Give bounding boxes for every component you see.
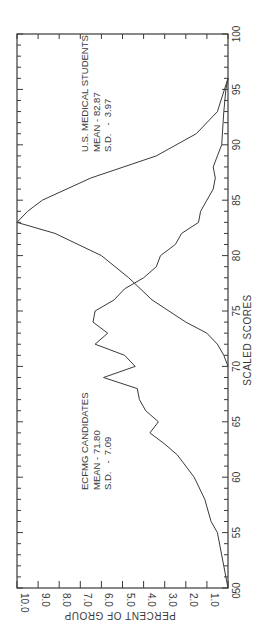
- x-axis-ticks: 50556065707580859095100: [17, 25, 242, 593]
- plot-frame: [17, 34, 228, 588]
- y-axis-ticks: 01.02.03.04.05.06.07.08.09.010.0: [17, 34, 241, 613]
- y-tick-label: 4.0: [146, 593, 157, 607]
- ecfmg-title: ECFMG CANDIDATES: [79, 393, 90, 490]
- distribution-chart: 50556065707580859095100 01.02.03.04.05.0…: [0, 0, 264, 624]
- x-tick-label: 100: [231, 25, 242, 42]
- x-tick-label: 65: [231, 416, 242, 428]
- y-tick-label: 1.0: [209, 593, 220, 607]
- ecfmg-curve: [93, 78, 228, 588]
- us-curve: [17, 78, 228, 366]
- ecfmg-annotation: ECFMG CANDIDATES MEAN - 71.80 S.D. - 7.0…: [79, 393, 113, 490]
- y-axis-title: PERCENT OF GROUP: [64, 610, 176, 621]
- y-tick-label: 2.0: [188, 593, 199, 607]
- us-sd: S.D. - 3.97: [102, 99, 113, 152]
- x-tick-label: 50: [231, 582, 242, 594]
- x-tick-label: 55: [231, 527, 242, 539]
- x-axis-title: SCALED SCORES: [242, 294, 253, 386]
- y-tick-label: 3.0: [167, 593, 178, 607]
- y-tick-label: 6.0: [103, 593, 114, 607]
- x-tick-label: 75: [231, 305, 242, 317]
- y-tick-label: 7.0: [82, 593, 93, 607]
- us-annotation: U.S. MEDICAL STUDENTS MEAN - 82.87 S.D. …: [79, 35, 113, 152]
- ecfmg-mean: MEAN - 71.80: [91, 430, 102, 490]
- y-tick-label: 10.0: [19, 593, 30, 613]
- us-mean: MEAN - 82.87: [91, 92, 102, 152]
- ecfmg-sd: S.D. - 7.09: [102, 437, 113, 490]
- us-title: U.S. MEDICAL STUDENTS: [79, 35, 90, 152]
- y-tick-label: 8.0: [61, 593, 72, 607]
- curves: [17, 78, 228, 588]
- y-tick-label: 0: [230, 593, 241, 599]
- x-tick-label: 80: [231, 250, 242, 262]
- x-tick-label: 90: [231, 139, 242, 151]
- plot-border: [17, 34, 228, 588]
- x-tick-label: 95: [231, 83, 242, 95]
- y-tick-label: 9.0: [40, 593, 51, 607]
- y-tick-label: 5.0: [125, 593, 136, 607]
- x-tick-label: 70: [231, 360, 242, 372]
- x-tick-label: 60: [231, 471, 242, 483]
- x-tick-label: 85: [231, 194, 242, 206]
